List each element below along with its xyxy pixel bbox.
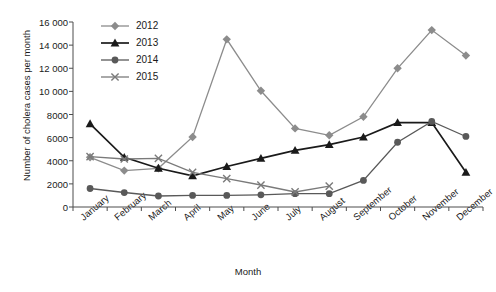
data-point-2014 — [189, 192, 196, 199]
axis-lines — [73, 22, 483, 207]
series-line-2012 — [90, 30, 466, 171]
data-point-2014 — [87, 185, 94, 192]
data-point-2014 — [394, 139, 401, 146]
data-point-2012 — [223, 35, 231, 43]
data-point-2012 — [325, 131, 333, 139]
data-point-2014 — [155, 193, 162, 200]
cholera-cases-line-chart: Number of cholera cases per month Month … — [0, 0, 496, 292]
data-point-2014 — [463, 133, 470, 140]
data-point-2012 — [359, 113, 367, 121]
series-line-2013 — [90, 123, 466, 176]
plot-area — [0, 0, 496, 292]
data-point-2012 — [120, 166, 128, 174]
data-point-2013 — [86, 119, 95, 127]
data-point-2014 — [121, 189, 128, 196]
data-point-2014 — [360, 177, 367, 184]
data-point-2014 — [223, 192, 230, 199]
data-point-2014 — [326, 190, 333, 197]
data-point-2014 — [428, 118, 435, 125]
data-point-2014 — [258, 191, 265, 198]
series-line-2015 — [90, 157, 329, 192]
